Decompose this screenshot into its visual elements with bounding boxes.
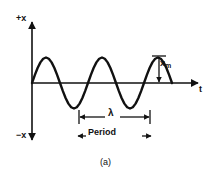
amplitude-label-subscript: m [165,62,171,69]
wave-figure: +x −x t xm λ Period (a) [0,0,217,180]
figure-caption: (a) [100,158,111,167]
wave-diagram-canvas [0,0,217,180]
y-axis-positive-label: +x [16,14,26,23]
amplitude-label: xm [160,59,171,69]
x-axis-label: t [199,85,202,94]
y-axis-negative-label: −x [16,131,26,140]
period-label: Period [88,128,116,137]
wavelength-label: λ [108,108,114,118]
